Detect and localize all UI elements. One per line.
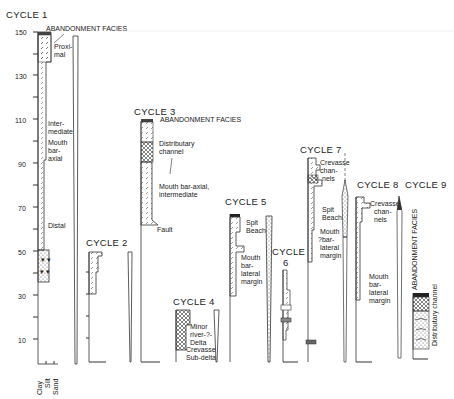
svg-text:Crevasse: Crevasse — [370, 200, 400, 207]
svg-text:Distributary: Distributary — [159, 140, 195, 148]
svg-text:CYCLE 8: CYCLE 8 — [357, 179, 399, 190]
svg-text:CYCLE 4: CYCLE 4 — [173, 296, 215, 307]
svg-text:Fault: Fault — [157, 226, 173, 233]
cycle-7: CYCLE 7 Crevasse chan- nels Spit Beach M… — [300, 144, 350, 362]
abandonment-facies-label: ABANDONMENT FACIES — [46, 25, 127, 32]
svg-text:Mouth: Mouth — [241, 254, 261, 261]
svg-text:Mouth: Mouth — [369, 273, 389, 280]
svg-text:chan-: chan- — [374, 208, 392, 215]
tick-110: 110 — [15, 117, 26, 124]
svg-text:Beach: Beach — [246, 227, 266, 234]
tick-130: 130 — [15, 73, 27, 80]
tick-90: 90 — [18, 161, 26, 168]
svg-text:Spit: Spit — [322, 206, 334, 214]
tick-10: 10 — [18, 337, 26, 344]
svg-text:Sub-delta: Sub-delta — [186, 354, 216, 361]
svg-text:Distal: Distal — [48, 222, 66, 229]
cycle-6: CYCLE 6 — [272, 246, 305, 362]
cycle-8: CYCLE 8 Crevasse chan- nels Mouth bar- l… — [356, 179, 402, 362]
cycle-5: CYCLE 5 Spit Beach Mouth bar- lateral ma… — [225, 196, 272, 362]
svg-text:CYCLE 7: CYCLE 7 — [300, 144, 342, 155]
svg-text:Crevasse: Crevasse — [186, 346, 216, 353]
svg-text:▾ ▾: ▾ ▾ — [41, 256, 51, 263]
svg-text:?bar-: ?bar- — [318, 236, 335, 243]
svg-text:river-?-: river-?- — [190, 331, 213, 338]
svg-text:▾ ▾: ▾ ▾ — [40, 268, 50, 275]
svg-text:intermediate: intermediate — [159, 191, 198, 198]
svg-text:CYCLE 5: CYCLE 5 — [225, 196, 267, 207]
grain-sand: Sand — [52, 379, 59, 395]
svg-text:CYCLE 2: CYCLE 2 — [86, 237, 128, 248]
svg-text:nels: nels — [322, 175, 335, 182]
svg-text:ABANDONMENT FACIES: ABANDONMENT FACIES — [411, 209, 418, 290]
svg-text:bar-: bar- — [241, 262, 254, 269]
cycle-2: CYCLE 2 — [86, 237, 132, 362]
svg-text:Minor: Minor — [190, 323, 208, 330]
svg-text:nels: nels — [374, 216, 387, 223]
tick-150: 150 — [15, 29, 27, 36]
svg-text:Spit: Spit — [246, 219, 258, 227]
grain-clay: Clay — [36, 380, 44, 395]
svg-text:lateral: lateral — [369, 289, 389, 296]
svg-text:Mouth: Mouth — [320, 228, 340, 235]
svg-text:mediate: mediate — [48, 128, 73, 135]
tick-30: 30 — [18, 293, 26, 300]
svg-text:CYCLE 9: CYCLE 9 — [405, 179, 447, 190]
stratigraphic-diagram: CYCLE 1 150 130 110 90 70 50 30 10 — [0, 0, 454, 399]
svg-text:Beach: Beach — [322, 214, 342, 221]
cycle-4: CYCLE 4 Minor river-?- Delta Crevasse Su… — [173, 296, 219, 362]
svg-text:chan-: chan- — [320, 167, 338, 174]
svg-text:ABANDONMENT FACIES: ABANDONMENT FACIES — [160, 116, 241, 123]
svg-text:Proxi-: Proxi- — [54, 43, 73, 50]
cycle-1-title: CYCLE 1 — [6, 9, 48, 20]
conglomerate-bed — [38, 250, 49, 282]
svg-text:CYCLE: CYCLE — [272, 246, 305, 257]
tick-50: 50 — [18, 249, 26, 256]
svg-text:6: 6 — [283, 257, 289, 268]
svg-text:axial: axial — [48, 155, 63, 162]
svg-text:margin: margin — [320, 252, 342, 260]
svg-text:channel: channel — [159, 148, 184, 155]
svg-text:bar-: bar- — [369, 281, 382, 288]
svg-text:lateral: lateral — [241, 270, 261, 277]
svg-text:margin: margin — [241, 278, 263, 286]
grain-silt: Silt — [44, 378, 51, 388]
axis-ticks — [33, 32, 38, 339]
cycle-1: CYCLE 1 150 130 110 90 70 50 30 10 — [6, 9, 127, 395]
svg-text:margin: margin — [369, 297, 391, 305]
svg-text:Mouth bar-axial,: Mouth bar-axial, — [159, 183, 209, 190]
cycle-1-wedge — [73, 36, 78, 364]
svg-text:Inter-: Inter- — [48, 120, 65, 127]
svg-text:lateral: lateral — [320, 244, 340, 251]
tick-70: 70 — [18, 205, 26, 212]
cycle-9: CYCLE 9 ABANDONMENT FACIES Distributary … — [405, 179, 447, 359]
svg-text:Distributary channel: Distributary channel — [431, 284, 439, 346]
svg-text:Delta: Delta — [190, 339, 206, 346]
svg-text:mal: mal — [54, 51, 66, 58]
svg-text:bar-: bar- — [48, 147, 61, 154]
svg-text:Mouth: Mouth — [48, 139, 68, 146]
